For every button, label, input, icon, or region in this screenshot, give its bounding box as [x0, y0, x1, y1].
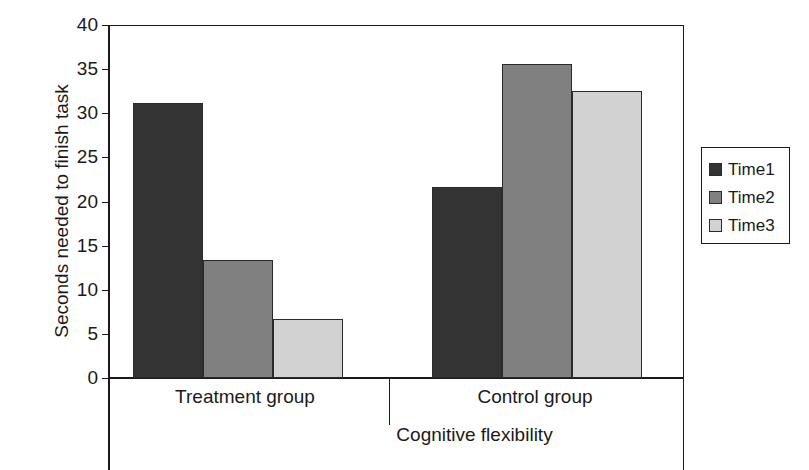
bar-time2-control [502, 64, 572, 378]
legend-swatch-icon [709, 219, 722, 232]
y-tick-label: 0 [46, 368, 98, 387]
y-tick-label: 15 [46, 236, 98, 255]
y-axis-line [108, 25, 110, 470]
chart-legend: Time1Time2Time3 [701, 147, 790, 244]
x-group-label-control: Control group [440, 386, 630, 408]
bar-time3-control [572, 91, 642, 378]
legend-label: Time1 [728, 161, 775, 178]
plot-frame-right [683, 25, 684, 470]
plot-frame-top [108, 25, 684, 26]
y-tick-label: 30 [46, 103, 98, 122]
legend-label: Time2 [728, 189, 775, 206]
legend-swatch-icon [709, 163, 722, 176]
legend-item-time3[interactable]: Time3 [709, 211, 789, 239]
bar-time2-treatment [203, 260, 273, 378]
legend-item-time2[interactable]: Time2 [709, 183, 789, 211]
y-tick-label: 25 [46, 147, 98, 166]
group-separator-tick [389, 379, 390, 425]
legend-swatch-icon [709, 191, 722, 204]
x-group-label-treatment: Treatment group [150, 386, 340, 408]
y-tick-label: 40 [46, 15, 98, 34]
legend-label: Time3 [728, 217, 775, 234]
x-axis-title: Cognitive flexibility [70, 424, 809, 446]
bar-time1-treatment [133, 103, 203, 378]
bar-chart: Seconds needed to finish task 0510152025… [0, 0, 809, 470]
y-tick-label: 20 [46, 192, 98, 211]
y-tick-label: 35 [46, 59, 98, 78]
bar-time3-treatment [273, 319, 343, 378]
bar-time1-control [432, 187, 502, 378]
legend-item-time1[interactable]: Time1 [709, 155, 789, 183]
y-tick-label: 5 [46, 324, 98, 343]
y-tick-label: 10 [46, 280, 98, 299]
